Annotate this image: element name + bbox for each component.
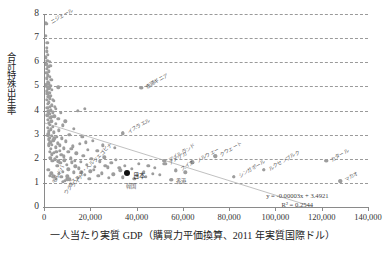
x-tick-label: 0 xyxy=(42,213,46,222)
x-tick-label: 20,000 xyxy=(79,213,102,222)
point-label: 日本 xyxy=(133,173,145,180)
x-tick-label: 100,000 xyxy=(262,213,290,222)
y-tick-label: 4 xyxy=(34,106,39,116)
point-label: 韓国 xyxy=(126,184,136,189)
y-axis-line xyxy=(44,14,45,207)
x-axis-title: 一人当たり実質 GDP（購買力平価換算、2011 年実質国際ドル） xyxy=(0,231,385,241)
plot-area: 012345678 020,00040,00060,00080,000100,0… xyxy=(44,14,368,207)
y-tick-label: 3 xyxy=(34,130,39,140)
y-tick-label: 8 xyxy=(34,9,39,19)
y-tick-label: 5 xyxy=(34,82,39,92)
y-tick-label: 1 xyxy=(34,178,39,188)
x-tick-label: 60,000 xyxy=(171,213,194,222)
fertility-gdp-scatter-chart: 合計特殊出生率 012345678 020,00040,00060,00080,… xyxy=(0,0,385,256)
y-tick-label: 6 xyxy=(34,58,39,68)
x-tick-label: 120,000 xyxy=(308,213,336,222)
regression-equation-text: y = -0.00003x + 3.4921 xyxy=(266,192,328,201)
y-tick-label: 7 xyxy=(34,33,39,43)
y-tick-label: 2 xyxy=(34,154,39,164)
data-point-highlighted xyxy=(124,170,130,176)
regression-r-squared: R² = 0.2544 xyxy=(266,201,328,210)
x-tick-label: 140,000 xyxy=(354,213,382,222)
x-axis-line xyxy=(44,207,368,208)
y-tick-label: 0 xyxy=(34,202,39,212)
x-tick xyxy=(368,207,369,211)
point-label: 香港 xyxy=(176,179,186,184)
x-tick-label: 40,000 xyxy=(125,213,148,222)
trendline xyxy=(44,14,368,207)
x-tick-label: 80,000 xyxy=(217,213,240,222)
y-axis-title: 合計特殊出生率 xyxy=(2,52,15,115)
